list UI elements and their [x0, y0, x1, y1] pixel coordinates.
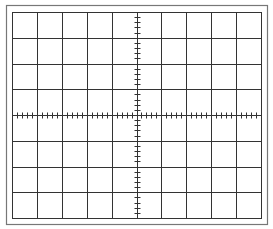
oscilloscope-graticule — [0, 0, 273, 229]
